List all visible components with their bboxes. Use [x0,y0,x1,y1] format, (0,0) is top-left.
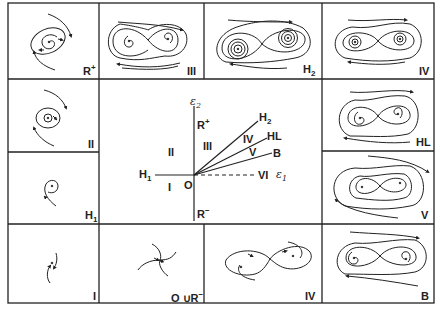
label-h2: H2 [303,64,315,78]
label-center-r-minus: R− [197,207,210,220]
label-center-i: I [168,182,171,193]
label-center-v: V [249,147,256,158]
phase-portrait-o-union-r-minus [138,244,176,276]
label-o-union-r-minus: O ∪R− [171,291,203,304]
label-center-b: B [273,148,281,159]
phase-portrait-v [334,156,428,218]
label-center-ii: II [168,147,174,158]
label-ii: II [88,139,94,150]
label-eps1-axis: ε1 [276,169,287,183]
label-center-iii: III [203,141,212,152]
phase-portrait-i [47,253,56,283]
phase-portrait-b [337,232,426,286]
phase-portrait-iv-bottom [225,242,311,280]
label-center-hl: HL [267,131,282,142]
phase-portrait-r-plus [27,14,71,70]
label-r-plus: R+ [83,64,96,77]
label-iv-bottom: IV [305,291,315,302]
label-hl: HL [416,137,431,148]
label-v: V [421,210,428,221]
bifurcation-plane [155,106,272,221]
phase-portrait-iii [108,22,187,69]
label-center-iv: IV [243,134,253,145]
diagram-canvas [0,0,441,311]
label-b: B [421,291,429,302]
label-h1: H1 [85,210,97,224]
label-center-h2: H2 [259,112,271,126]
phase-portrait-h2 [217,20,310,69]
phase-portrait-ii [34,90,66,146]
label-iii: III [187,66,196,77]
label-iv-top: IV [419,66,429,77]
label-center-vi: VI [258,170,268,181]
label-center-r-plus: R+ [197,118,210,131]
phase-portrait-h1 [45,180,58,206]
label-eps2-axis: ε2 [190,96,201,110]
phase-portrait-hl [339,91,418,143]
label-i: I [93,291,96,302]
label-center-h1: H1 [139,169,151,183]
phase-portrait-iv-top [335,19,421,64]
label-center-origin: O [184,180,193,191]
